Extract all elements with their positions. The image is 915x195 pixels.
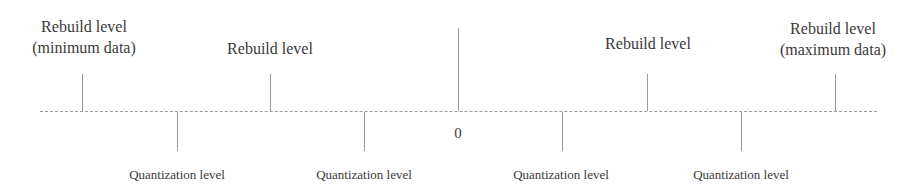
zero-label: 0 [454, 125, 462, 142]
quantization-diagram: 0 Rebuild level (minimum data) Rebuild l… [0, 0, 915, 195]
rebuild-label-text: Rebuild level [227, 38, 313, 59]
quantization-tick-1 [177, 112, 178, 151]
rebuild-label-text: Rebuild level [780, 18, 886, 39]
quantization-label-2: Quantization level [316, 167, 412, 183]
rebuild-label-subtext: (maximum data) [780, 39, 886, 60]
rebuild-label-3: Rebuild level [605, 33, 691, 54]
rebuild-tick-min [82, 74, 83, 111]
rebuild-label-min: Rebuild level (minimum data) [32, 16, 136, 58]
quantization-tick-4 [741, 112, 742, 151]
rebuild-label-2: Rebuild level [227, 38, 313, 59]
rebuild-label-text: Rebuild level [32, 16, 136, 37]
rebuild-tick-max [835, 74, 836, 111]
quantization-label-3: Quantization level [513, 167, 609, 183]
rebuild-label-max: Rebuild level (maximum data) [780, 18, 886, 60]
horizontal-axis [40, 111, 877, 112]
zero-line [458, 28, 459, 111]
rebuild-label-text: Rebuild level [605, 33, 691, 54]
quantization-label-4: Quantization level [693, 167, 789, 183]
quantization-label-1: Quantization level [129, 167, 225, 183]
rebuild-tick-2 [270, 74, 271, 111]
quantization-tick-3 [562, 112, 563, 151]
rebuild-tick-3 [647, 74, 648, 111]
quantization-tick-2 [364, 112, 365, 151]
rebuild-label-subtext: (minimum data) [32, 37, 136, 58]
